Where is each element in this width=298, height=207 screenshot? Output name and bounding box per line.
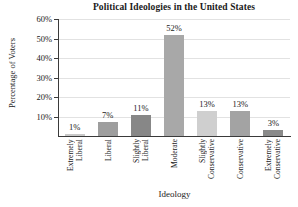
chart-title: Political Ideologies in the United State… <box>55 2 293 13</box>
y-tick-label: 50% <box>12 35 52 44</box>
y-tick-mark <box>54 19 59 20</box>
bar <box>263 130 283 136</box>
bar-value-label: 7% <box>88 111 128 120</box>
x-category-label-line: Conservative <box>207 139 216 193</box>
x-category-label: SlightlyLiberal <box>125 139 157 195</box>
x-category-label-line: Liberal <box>75 139 84 193</box>
y-tick-mark <box>54 97 59 98</box>
x-category-label-line: Conservative <box>236 139 245 193</box>
y-tick-label: 30% <box>12 74 52 83</box>
gridline <box>58 19 290 20</box>
x-axis-line <box>58 136 291 137</box>
x-category-label: SlightlyConservative <box>191 139 223 195</box>
y-tick-label: 60% <box>12 15 52 24</box>
x-category-label: ExtremelyConservative <box>257 139 289 195</box>
y-tick-mark <box>54 117 59 118</box>
bar <box>65 134 85 136</box>
bar <box>164 35 184 136</box>
x-category-label-line: Moderate <box>170 139 179 193</box>
bar <box>131 115 151 136</box>
y-tick-mark <box>54 78 59 79</box>
bar <box>197 111 217 136</box>
x-axis-title: Ideology <box>58 189 291 199</box>
x-category-label: ExtremelyLiberal <box>59 139 91 195</box>
bar <box>98 122 118 136</box>
x-category-label: Conservative <box>224 139 256 195</box>
chart-container: Political Ideologies in the United State… <box>0 0 298 207</box>
x-category-label-line: Extremely <box>66 139 75 193</box>
x-category-label-line: Slightly <box>198 139 207 193</box>
x-category-label: Moderate <box>158 139 190 195</box>
bar-value-label: 11% <box>121 104 161 113</box>
x-category-label-line: Conservative <box>273 139 282 193</box>
y-tick-mark <box>54 39 59 40</box>
bar-value-label: 13% <box>220 100 260 109</box>
y-tick-mark <box>54 58 59 59</box>
x-category-label: Liberal <box>92 139 124 195</box>
y-tick-label: 20% <box>12 93 52 102</box>
bar-value-label: 52% <box>154 24 194 33</box>
y-tick-label: 40% <box>12 54 52 63</box>
bar-value-label: 1% <box>55 123 95 132</box>
x-category-label-line: Liberal <box>103 139 112 193</box>
bar <box>230 111 250 136</box>
y-tick-label: 10% <box>12 113 52 122</box>
bar-value-label: 3% <box>253 119 293 128</box>
x-category-label-line: Slightly <box>132 139 141 193</box>
x-category-label-line: Liberal <box>141 139 150 193</box>
